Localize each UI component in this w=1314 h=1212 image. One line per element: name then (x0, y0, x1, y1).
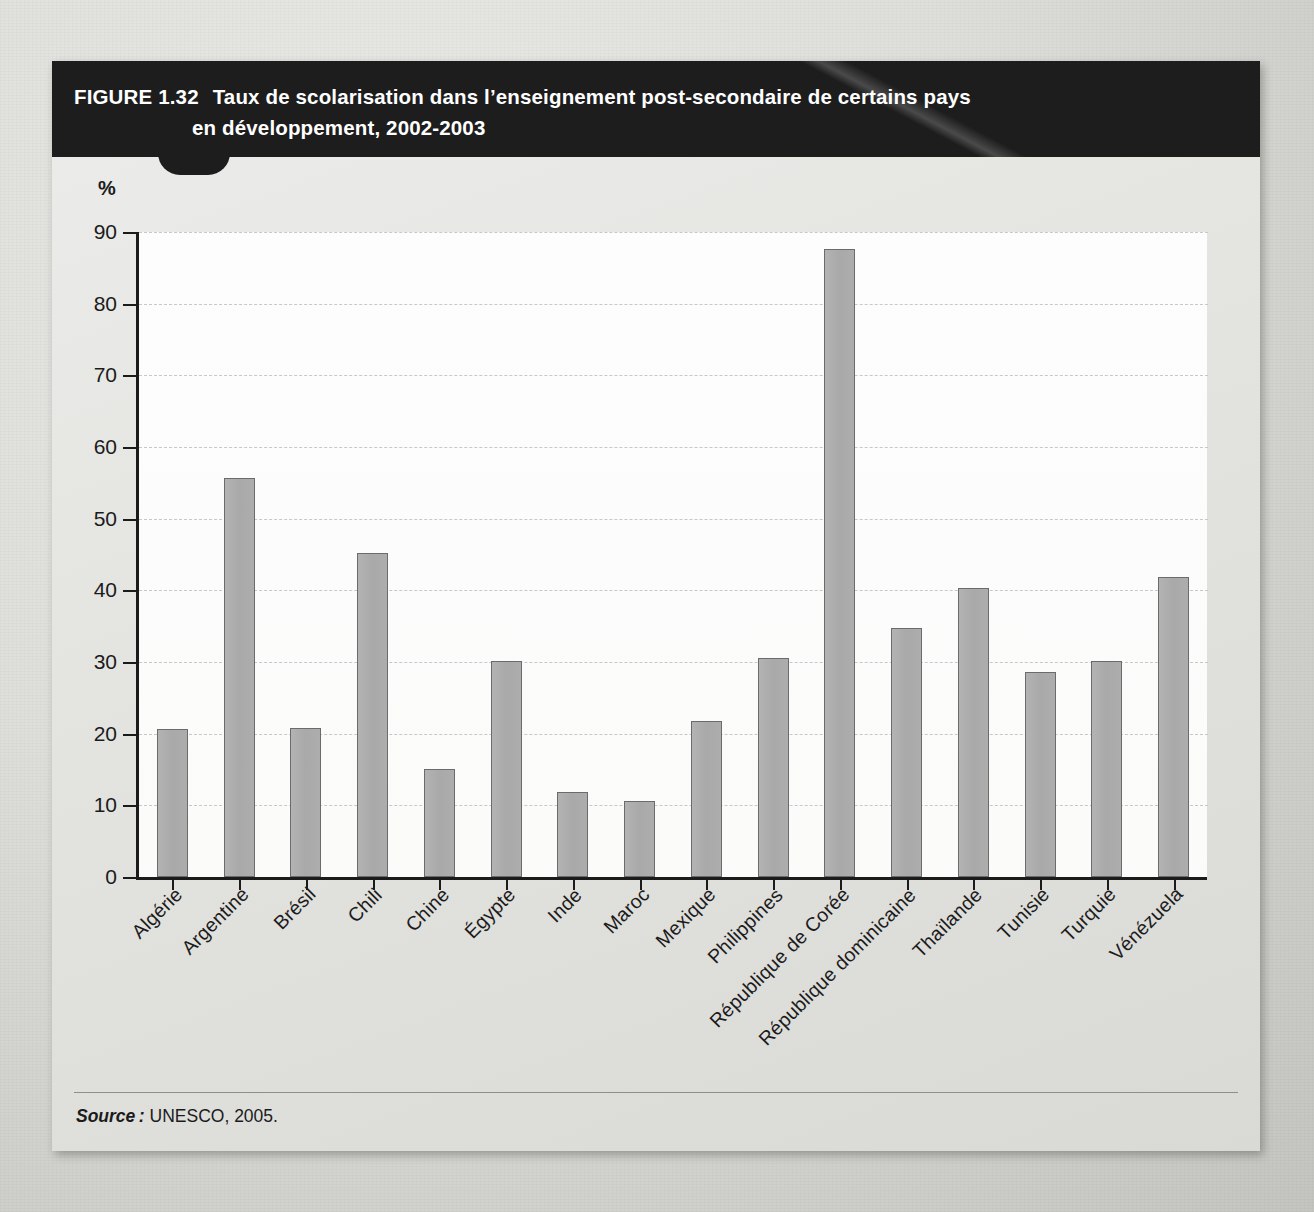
x-axis-label-text: Turquie (1057, 883, 1120, 946)
y-axis-tick-40 (123, 590, 139, 592)
gridline-30 (139, 662, 1208, 663)
x-axis-label-text: Algérie (127, 883, 187, 943)
bar (224, 478, 255, 877)
y-axis-label-70: 70 (94, 363, 117, 387)
bar (1091, 661, 1122, 877)
y-axis-tick-20 (123, 734, 139, 736)
y-axis-tick-10 (123, 805, 139, 807)
gridline-50 (139, 519, 1208, 520)
bar (1025, 672, 1056, 877)
y-axis-tick-90 (123, 232, 139, 234)
y-axis-label-60: 60 (94, 435, 117, 459)
bar (891, 628, 922, 877)
figure-title-line2: en développement, 2002-2003 (192, 112, 1230, 143)
bar (958, 588, 989, 877)
source-value: UNESCO, 2005. (145, 1106, 278, 1126)
y-axis-label-80: 80 (94, 292, 117, 316)
gridline-40 (139, 590, 1208, 591)
x-axis-label: Inde (543, 883, 587, 927)
source-divider (74, 1092, 1238, 1093)
x-axis-label-text: Tunisie (993, 883, 1054, 944)
x-axis-label: Égypte (460, 883, 520, 943)
bar (290, 728, 321, 877)
x-axis-label: Tunisie (993, 883, 1054, 944)
y-axis-label-50: 50 (94, 507, 117, 531)
x-axis-label: Maroc (599, 883, 654, 938)
x-axis-label-text: Chine (401, 883, 454, 936)
x-axis-label: Chine (401, 883, 454, 936)
x-axis-label: Chili (343, 883, 387, 927)
figure-title-bar: FIGURE 1.32Taux de scolarisation dans l’… (52, 61, 1260, 157)
x-axis-label-text: Inde (543, 883, 587, 927)
figure-card: FIGURE 1.32Taux de scolarisation dans l’… (52, 61, 1260, 1151)
bar (557, 792, 588, 877)
source-label: Source : (76, 1106, 145, 1126)
x-axis-label-text: Chili (343, 883, 387, 927)
bar (357, 553, 388, 877)
x-axis-label: Argentine (177, 883, 254, 960)
bar (624, 801, 655, 877)
y-axis-label-90: 90 (94, 220, 117, 244)
gridline-80 (139, 304, 1208, 305)
x-axis-label: Mexique (651, 883, 720, 952)
x-axis-label-text: Égypte (460, 883, 520, 943)
bar (491, 661, 522, 877)
x-axis-label-text: Argentine (177, 883, 254, 960)
y-axis-label-30: 30 (94, 650, 117, 674)
y-axis-tick-60 (123, 447, 139, 449)
bar (157, 729, 188, 877)
bar (1158, 577, 1189, 877)
bar (691, 721, 722, 877)
x-axis-label-text: Mexique (651, 883, 720, 952)
gridline-70 (139, 375, 1208, 376)
y-axis-tick-30 (123, 662, 139, 664)
y-axis-label-20: 20 (94, 722, 117, 746)
chart-plot-area: 0102030405060708090AlgérieArgentineBrési… (136, 232, 1207, 880)
x-axis-label: Thaïlande (908, 883, 987, 962)
figure-title: FIGURE 1.32Taux de scolarisation dans l’… (74, 81, 1230, 143)
y-axis-tick-80 (123, 304, 139, 306)
x-axis-label-text: Maroc (599, 883, 654, 938)
y-axis-tick-0 (123, 877, 139, 879)
title-bar-notch (158, 153, 230, 175)
x-axis-label-text: Thaïlande (908, 883, 987, 962)
y-axis-label-10: 10 (94, 793, 117, 817)
page-background: FIGURE 1.32Taux de scolarisation dans l’… (0, 0, 1314, 1212)
y-axis-label-40: 40 (94, 578, 117, 602)
y-axis-tick-50 (123, 519, 139, 521)
bar (424, 769, 455, 877)
x-axis-label: Turquie (1057, 883, 1120, 946)
figure-number: FIGURE 1.32 (74, 85, 199, 108)
bar (758, 658, 789, 877)
bar (824, 249, 855, 877)
y-axis-label-0: 0 (105, 865, 117, 889)
x-axis-label-text: Brésil (269, 883, 321, 935)
x-axis-label: Algérie (127, 883, 187, 943)
gridline-90 (139, 232, 1208, 233)
y-axis-tick-70 (123, 375, 139, 377)
figure-title-line1: Taux de scolarisation dans l’enseignemen… (213, 85, 971, 108)
x-axis-label: Brésil (269, 883, 321, 935)
y-axis-unit-label: % (98, 177, 116, 200)
gridline-60 (139, 447, 1208, 448)
source-line: Source : UNESCO, 2005. (76, 1106, 278, 1127)
